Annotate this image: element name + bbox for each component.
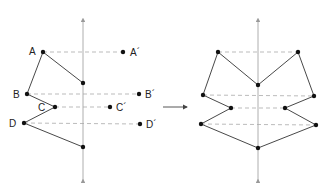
reflection-diagram: A B C D A´ B´ C´ D´ — [0, 0, 330, 194]
label-b-prime: B´ — [145, 89, 155, 100]
reflection-guides-right — [201, 52, 316, 125]
label-c: C — [38, 102, 45, 113]
label-b: B — [13, 89, 20, 100]
label-a: A — [29, 46, 36, 57]
points-right — [199, 50, 318, 150]
right-panel — [199, 20, 318, 181]
diagram-canvas: A B C D A´ B´ C´ D´ — [0, 0, 330, 194]
label-a-prime: A´ — [130, 47, 140, 58]
reflection-guides — [24, 52, 140, 124]
label-c-prime: C´ — [116, 102, 127, 113]
original-polygon — [24, 52, 83, 147]
label-d: D — [9, 118, 16, 129]
label-d-prime: D´ — [146, 119, 157, 130]
symmetric-polygon — [201, 52, 316, 148]
left-panel: A B C D A´ B´ C´ D´ — [9, 20, 157, 181]
